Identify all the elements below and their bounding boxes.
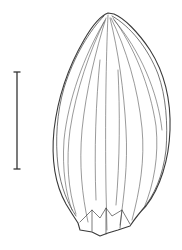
- scale-bar: [14, 72, 21, 169]
- botanical-illustration: [0, 0, 182, 250]
- seed-drawing: [53, 13, 170, 236]
